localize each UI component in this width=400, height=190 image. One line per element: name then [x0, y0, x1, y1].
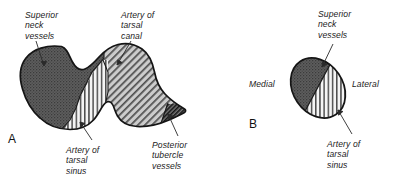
panel-letter-a: A: [8, 132, 16, 146]
panel-letter-b: B: [249, 117, 257, 131]
label-artery-of-tarsal-sinus-b: Artery of tarsal sinus: [327, 139, 360, 170]
anatomical-figure: Superior neck vessels Artery of tarsal c…: [0, 0, 400, 190]
label-superior-neck-vessels-a: Superior neck vessels: [25, 10, 58, 41]
label-artery-of-tarsal-sinus-a: Artery of tarsal sinus: [66, 145, 99, 176]
label-medial: Medial: [249, 79, 275, 89]
panel-a-diagram: [10, 35, 200, 145]
label-lateral: Lateral: [352, 79, 379, 89]
label-artery-of-tarsal-canal: Artery of tarsal canal: [121, 10, 154, 41]
panel-b-diagram: [279, 44, 360, 140]
label-posterior-tubercle-vessels: Posterior tubercle vessels: [152, 140, 187, 171]
label-superior-neck-vessels-b: Superior neck vessels: [318, 9, 351, 40]
